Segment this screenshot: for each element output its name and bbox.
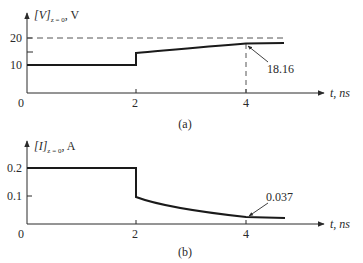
annotation-arrow-a: [248, 46, 268, 62]
chart-a: 18.16 10 20 0 2 4 [V]z = 0, V t, ns (a): [10, 8, 350, 131]
y-label-unit-a: , V: [65, 8, 80, 22]
x-tick-label-0-b: 0: [18, 227, 24, 241]
y-tick-label-20: 20: [10, 31, 22, 45]
y-tick-label-0-1: 0.1: [7, 189, 22, 203]
x-tick-label-4: 4: [243, 96, 249, 110]
x-tick-label-2-b: 2: [132, 227, 138, 241]
y-label-main-a: [V]: [34, 8, 51, 22]
x-axis-label-b: t, ns: [330, 217, 350, 231]
annotation-18-16: 18.16: [267, 62, 294, 76]
y-label-main-b: [I]: [34, 139, 48, 153]
chart-b: 0.037 0.1 0.2 0 2 4 [I]z = 0, A t, ns (b…: [7, 139, 350, 259]
y-axis-label-b: [I]z = 0, A: [34, 139, 76, 155]
x-axis-label-a: t, ns: [330, 86, 350, 100]
annotation-0-037: 0.037: [266, 190, 293, 204]
y-tick-label-10: 10: [10, 58, 22, 72]
y-label-unit-b: , A: [61, 139, 75, 153]
figure: 18.16 10 20 0 2 4 [V]z = 0, V t, ns (a) …: [0, 0, 363, 263]
y-label-sub-b: z = 0: [47, 147, 62, 155]
y-axis-label-a: [V]z = 0, V: [34, 8, 80, 24]
caption-b: (b): [178, 245, 192, 259]
x-tick-label-0: 0: [18, 96, 24, 110]
annotation-arrow-b: [249, 203, 268, 216]
x-tick-label-2: 2: [132, 96, 138, 110]
y-label-sub-a: z = 0: [51, 16, 66, 24]
current-curve: [27, 168, 285, 218]
y-tick-label-0-2: 0.2: [7, 161, 22, 175]
caption-a: (a): [178, 117, 191, 131]
voltage-curve: [27, 43, 284, 65]
x-tick-label-4-b: 4: [243, 227, 249, 241]
